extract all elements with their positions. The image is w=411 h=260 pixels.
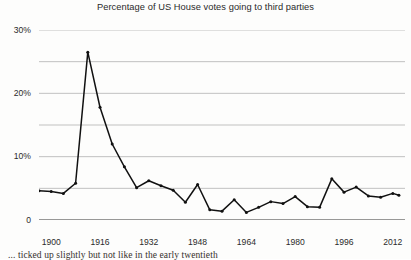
data-point xyxy=(123,165,126,168)
body-text-fragment: ... ticked up slightly but not like in t… xyxy=(8,250,411,260)
data-point xyxy=(221,210,224,213)
x-tick-label: 1964 xyxy=(237,238,256,247)
data-point xyxy=(343,191,346,194)
chart-title: Percentage of US House votes going to th… xyxy=(0,2,411,12)
data-point xyxy=(397,194,400,197)
data-point xyxy=(184,201,187,204)
data-point xyxy=(306,205,309,208)
data-point xyxy=(196,183,199,186)
y-axis-label-group: 30%20%10%0 xyxy=(0,0,35,230)
data-point xyxy=(269,200,272,203)
data-point xyxy=(330,177,333,180)
chart-plot-svg xyxy=(39,30,405,220)
x-tick-label: 1980 xyxy=(286,238,305,247)
data-point xyxy=(39,189,41,192)
data-point xyxy=(99,106,102,109)
data-point xyxy=(318,206,321,209)
data-point xyxy=(62,192,65,195)
y-tick-label: 30% xyxy=(14,26,31,35)
data-point xyxy=(233,198,236,201)
x-tick-label: 2012 xyxy=(383,238,402,247)
x-tick-label: 1932 xyxy=(139,238,158,247)
data-point xyxy=(147,179,150,182)
x-tick-label: 1948 xyxy=(188,238,207,247)
data-point xyxy=(111,143,114,146)
data-point xyxy=(74,182,77,185)
data-point xyxy=(355,186,358,189)
data-point xyxy=(367,194,370,197)
data-point xyxy=(379,196,382,199)
plot-area xyxy=(39,30,405,220)
y-tick-label: 0 xyxy=(26,216,31,225)
x-tick-label: 1996 xyxy=(334,238,353,247)
data-point xyxy=(50,190,53,193)
data-point xyxy=(294,195,297,198)
data-point xyxy=(208,208,211,211)
data-point xyxy=(245,211,248,214)
x-tick-label: 1900 xyxy=(42,238,61,247)
data-point xyxy=(282,202,285,205)
data-point xyxy=(160,184,163,187)
data-point xyxy=(86,51,89,54)
data-point xyxy=(391,192,394,195)
y-tick-label: 20% xyxy=(14,89,31,98)
data-point xyxy=(172,189,175,192)
x-tick-label: 1916 xyxy=(90,238,109,247)
data-point xyxy=(257,206,260,209)
y-tick-label: 10% xyxy=(14,152,31,161)
data-point xyxy=(135,186,138,189)
